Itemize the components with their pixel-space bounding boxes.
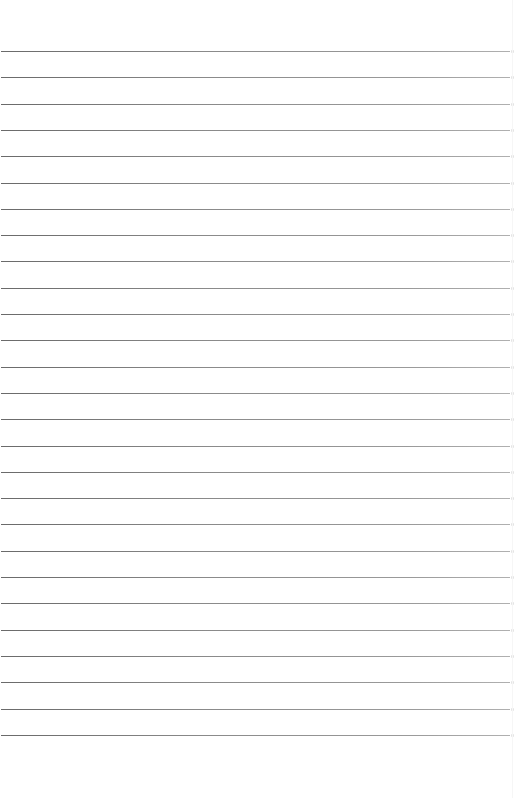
ruled-line xyxy=(1,367,510,368)
ruled-line xyxy=(1,288,510,289)
page-edge xyxy=(512,0,513,798)
ruled-line xyxy=(1,682,510,683)
ruled-line xyxy=(1,498,510,499)
ruled-line xyxy=(1,77,510,78)
ruled-line xyxy=(1,735,510,736)
ruled-line xyxy=(1,630,510,631)
ruled-line xyxy=(1,156,510,157)
ruled-line xyxy=(1,446,510,447)
ruled-line xyxy=(1,340,510,341)
ruled-line xyxy=(1,524,510,525)
ruled-line xyxy=(1,709,510,710)
ruled-line xyxy=(1,472,510,473)
ruled-line xyxy=(1,603,510,604)
ruled-line xyxy=(1,314,510,315)
lined-paper-page xyxy=(0,0,515,798)
ruled-line xyxy=(1,656,510,657)
ruled-line xyxy=(1,419,510,420)
ruled-line xyxy=(1,235,510,236)
ruled-line xyxy=(1,261,510,262)
ruled-line xyxy=(1,130,510,131)
ruled-line xyxy=(1,577,510,578)
ruled-line xyxy=(1,183,510,184)
ruled-line xyxy=(1,551,510,552)
ruled-line xyxy=(1,104,510,105)
ruled-line xyxy=(1,393,510,394)
ruled-line xyxy=(1,51,510,52)
ruled-line xyxy=(1,209,510,210)
